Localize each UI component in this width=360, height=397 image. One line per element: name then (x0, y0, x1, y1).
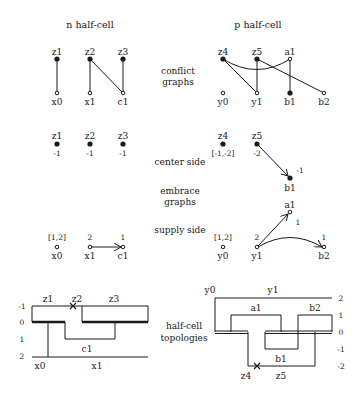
svg-text:-2: -2 (253, 149, 261, 158)
svg-text:2: 2 (88, 233, 93, 242)
node-b2 (322, 91, 326, 95)
svg-text:a1: a1 (250, 303, 261, 313)
svg-text:b2: b2 (318, 97, 330, 107)
node-x0 (55, 91, 59, 95)
node-z3-center (120, 141, 125, 146)
svg-text:z5: z5 (276, 371, 287, 381)
center-side-p: z4 z5 [-1,-2] -2 -1 b1 (212, 131, 304, 193)
node-z2-center (87, 141, 92, 146)
svg-text:b2: b2 (309, 303, 321, 313)
svg-text:c1: c1 (118, 97, 129, 107)
svg-text:[1,2]: [1,2] (48, 233, 66, 242)
svg-text:graphs: graphs (162, 77, 194, 87)
svg-text:-1: -1 (86, 149, 93, 158)
row-label-embrace-graphs: embrace graphs (160, 186, 200, 207)
topology-p: 2 1 0 -1 -2 y0 y1 a1 b2 b1 z4 (204, 285, 345, 381)
svg-text:z4: z4 (218, 131, 229, 141)
svg-text:graphs: graphs (164, 197, 196, 207)
row-label-half-cell-topologies: half-cell topologies (160, 321, 207, 343)
svg-text:1: 1 (296, 218, 301, 227)
row-label-center-side: center side (155, 157, 206, 167)
svg-text:y1: y1 (267, 285, 279, 295)
svg-text:[1,2]: [1,2] (214, 233, 232, 242)
supply-side-n: [1,2] 2 1 x0 x1 c1 (48, 233, 128, 261)
node-y0 (221, 91, 225, 95)
node-c1 (121, 91, 125, 95)
row-label-conflict-graphs: conflict graphs (161, 66, 195, 87)
svg-text:-1: -1 (18, 302, 25, 311)
conflict-graph-n: z1 z2 z3 x0 x1 c1 (52, 47, 129, 107)
svg-text:y0: y0 (217, 97, 229, 107)
n-half-cell-title: n half-cell (66, 19, 113, 30)
svg-text:1: 1 (322, 233, 327, 242)
svg-text:y0: y0 (217, 251, 229, 261)
svg-text:x0: x0 (52, 97, 63, 107)
svg-text:b1: b1 (284, 183, 296, 193)
svg-text:z2: z2 (85, 131, 95, 141)
svg-text:x1: x1 (92, 361, 103, 371)
svg-text:y1: y1 (251, 251, 263, 261)
node-z4 (220, 56, 225, 61)
svg-text:[-1,-2]: [-1,-2] (212, 149, 235, 158)
node-c1-supply (121, 245, 125, 249)
svg-text:z5: z5 (252, 131, 263, 141)
svg-text:z4: z4 (241, 371, 252, 381)
svg-text:x1: x1 (85, 97, 96, 107)
svg-text:-1: -1 (53, 149, 60, 158)
svg-text:y1: y1 (251, 97, 263, 107)
svg-text:z1: z1 (43, 294, 53, 304)
svg-text:-1: -1 (119, 149, 126, 158)
topology-n: -1 0 1 2 z1 z2 z3 c1 x0 x1 (18, 294, 148, 371)
node-x1 (88, 91, 92, 95)
conflict-graph-p: z4 z5 a1 y0 y1 b1 b2 (217, 47, 330, 107)
svg-text:half-cell: half-cell (166, 321, 202, 331)
svg-text:conflict: conflict (161, 66, 195, 76)
node-x1-supply (88, 245, 92, 249)
svg-text:z3: z3 (118, 47, 129, 57)
svg-text:z1: z1 (52, 47, 62, 57)
svg-text:a1: a1 (284, 47, 295, 57)
svg-text:-1: -1 (296, 166, 303, 175)
svg-text:z3: z3 (118, 131, 129, 141)
node-b1 (287, 90, 292, 95)
node-z1-center (54, 141, 59, 146)
svg-text:-1: -1 (337, 345, 344, 354)
node-y0-supply (221, 245, 225, 249)
node-b1-center (287, 175, 292, 180)
node-a1 (288, 57, 292, 61)
svg-text:a1: a1 (284, 200, 295, 210)
svg-text:z2: z2 (72, 294, 82, 304)
svg-text:2: 2 (20, 352, 25, 361)
svg-text:c1: c1 (118, 251, 129, 261)
svg-text:0: 0 (20, 318, 25, 327)
svg-text:b1: b1 (275, 354, 287, 364)
node-z5 (254, 56, 259, 61)
svg-text:embrace: embrace (160, 186, 200, 196)
svg-text:x1: x1 (85, 251, 96, 261)
svg-text:topologies: topologies (160, 333, 207, 343)
supply-side-p: a1 1 [1,2] 2 1 y0 y1 b2 (214, 200, 330, 261)
svg-text:z4: z4 (218, 47, 229, 57)
svg-text:0: 0 (339, 328, 344, 337)
svg-text:2: 2 (255, 233, 260, 242)
node-a1-supply (288, 210, 292, 214)
svg-text:z1: z1 (52, 131, 62, 141)
svg-text:z2: z2 (85, 47, 95, 57)
svg-text:2: 2 (339, 294, 344, 303)
node-z1 (54, 56, 59, 61)
svg-text:y0: y0 (204, 285, 216, 295)
row-label-supply-side: supply side (154, 225, 205, 235)
node-z3 (120, 56, 125, 61)
svg-text:1: 1 (121, 233, 126, 242)
p-half-cell-title: p half-cell (234, 19, 281, 30)
node-b2-supply (322, 245, 326, 249)
node-z2 (87, 56, 92, 61)
svg-text:b1: b1 (284, 97, 296, 107)
svg-text:1: 1 (20, 335, 25, 344)
svg-text:-2: -2 (337, 362, 345, 371)
node-y1 (255, 91, 259, 95)
svg-text:z3: z3 (109, 294, 120, 304)
svg-text:b2: b2 (318, 251, 330, 261)
node-z4-center (220, 141, 225, 146)
svg-text:c1: c1 (82, 344, 93, 354)
